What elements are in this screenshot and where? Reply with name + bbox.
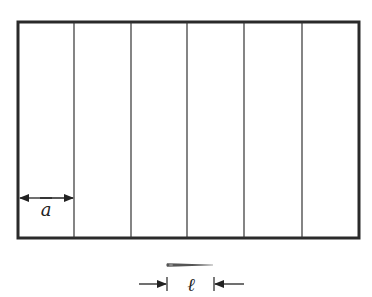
needle-length-dimension: ℓ [139, 274, 244, 295]
needle-icon [166, 263, 213, 266]
needle-length-label: ℓ [187, 274, 195, 295]
board-frame [18, 22, 359, 238]
spacing-label: a [41, 199, 52, 220]
buffon-needle-diagram: a ℓ [0, 0, 372, 297]
